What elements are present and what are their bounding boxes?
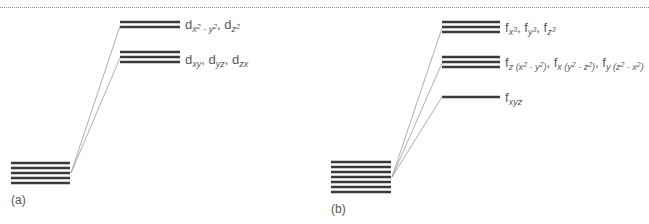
panel-b-degenerate-levels [331, 162, 391, 192]
panel-a-connectors [71, 26, 120, 173]
label-b-lower-orbital: fxyz [505, 91, 522, 107]
panel-b-connectors [392, 28, 442, 177]
label-a-upper-orbitals: dx2 - y2, dz2 [185, 18, 240, 34]
label-b-middle-orbitals: fz (x2 - y2), fx (y2 - z2), fy (z2 - x2) [505, 56, 644, 72]
panel-b-upper-levels [442, 22, 500, 32]
panel-b-middle-levels [442, 57, 500, 67]
label-a-lower-orbitals: dxy, dyz, dzx [185, 53, 248, 69]
panel-a-degenerate-levels [11, 163, 70, 183]
panel-b-label: (b) [331, 202, 346, 216]
panel-a-upper-levels [120, 22, 180, 27]
panel-a-lower-levels [120, 52, 180, 62]
panel-a-label: (a) [11, 193, 26, 207]
label-b-upper-orbitals: fx3, fy3, fz3 [505, 21, 556, 37]
